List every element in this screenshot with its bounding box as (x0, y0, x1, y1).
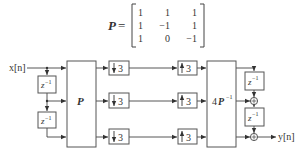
downsampler-1: 3 (109, 61, 129, 75)
delay-exponent: −1 (45, 79, 51, 85)
downsample-factor: 3 (118, 96, 123, 107)
matrix-cell-0-1: 1 (165, 7, 170, 18)
left-bracket (132, 4, 136, 47)
right-bracket (200, 4, 204, 47)
matrix-cell-1-1: −1 (159, 20, 170, 31)
matrix-cell-0-2: 1 (192, 7, 197, 18)
pinv-out-1 (236, 68, 254, 71)
delay-block-right-2: z −1 (245, 108, 264, 126)
matrix-cell-2-0: 1 (138, 33, 143, 44)
synthesis-block-exponent: −1 (226, 94, 232, 100)
junction-dot (46, 67, 48, 69)
upsample-factor: 3 (186, 132, 191, 143)
matrix-symbol: P (108, 18, 117, 33)
downsample-factor: 3 (118, 132, 123, 143)
adder-1 (250, 97, 257, 104)
synthesis-block-symbol: P (218, 96, 225, 107)
input-label: x[n] (9, 62, 26, 73)
delay-block-left-1: z −1 (38, 76, 56, 93)
downsampler-3: 3 (109, 129, 129, 144)
delay-exponent: −1 (252, 75, 258, 81)
delay-block-right-1: z −1 (245, 72, 264, 90)
upsampler-2: 3 (178, 93, 197, 108)
upsampler-1: 3 (178, 61, 197, 75)
upsampler-3: 3 (178, 129, 197, 144)
matrix-cell-1-0: 1 (138, 20, 143, 31)
delay-exponent: −1 (45, 115, 51, 121)
downsample-factor: 3 (118, 63, 123, 74)
matrix-cell-0-0: 1 (138, 7, 143, 18)
synthesis-block-prefix: 4 (212, 96, 217, 107)
junction-dot (46, 100, 48, 102)
upsample-factor: 3 (186, 96, 191, 107)
matrix-equals: = (118, 18, 125, 33)
analysis-matrix-block: P (67, 61, 96, 147)
delay2-to-p-wire (47, 128, 66, 137)
downsampler-2: 3 (109, 93, 129, 108)
matrix-cell-2-2: −1 (186, 33, 197, 44)
synthesis-matrix-block: 4 P −1 (207, 61, 236, 147)
filter-bank-diagram: P = 1 1 1 1 −1 1 1 0 −1 x[n] (0, 0, 301, 154)
matrix-cell-1-2: 1 (192, 20, 197, 31)
delay-exponent: −1 (252, 111, 258, 117)
matrix-equation: P = 1 1 1 1 −1 1 1 0 −1 (108, 4, 204, 47)
adder-2 (250, 133, 257, 140)
matrix-cell-2-1: 0 (165, 33, 170, 44)
analysis-block-label: P (77, 95, 84, 107)
output-label: y[n] (278, 131, 295, 142)
delay-block-left-2: z −1 (38, 112, 56, 128)
upsample-factor: 3 (186, 63, 191, 74)
